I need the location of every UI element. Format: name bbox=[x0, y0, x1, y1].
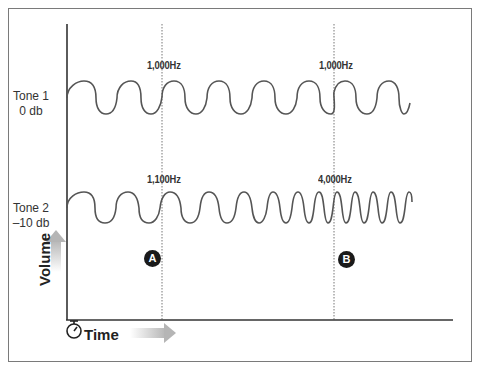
tone2-label: Tone 2 –10 db bbox=[3, 201, 59, 231]
freq-label-tone1-a: 1,000Hz bbox=[147, 58, 181, 73]
freq-label-tone1-b: 1,000Hz bbox=[319, 58, 353, 73]
marker-b: B bbox=[338, 251, 355, 268]
y-axis-title: Volume bbox=[36, 233, 53, 286]
freq-label-tone2-b: 4,000Hz bbox=[318, 172, 352, 187]
stopwatch-icon bbox=[67, 321, 81, 338]
tone2-waveform bbox=[67, 192, 412, 223]
x-axis-title: Time bbox=[84, 326, 119, 343]
diagram-canvas bbox=[0, 0, 481, 368]
freq-label-tone2-a: 1,100Hz bbox=[147, 172, 181, 187]
tone1-level: 0 db bbox=[3, 104, 59, 119]
marker-a: A bbox=[144, 250, 161, 267]
tone2-name: Tone 2 bbox=[3, 201, 59, 216]
right-arrow-icon bbox=[130, 323, 176, 343]
tone1-name: Tone 1 bbox=[3, 89, 59, 104]
tone1-waveform bbox=[67, 81, 410, 114]
tone2-level: –10 db bbox=[3, 216, 59, 231]
tone1-label: Tone 1 0 db bbox=[3, 89, 59, 119]
